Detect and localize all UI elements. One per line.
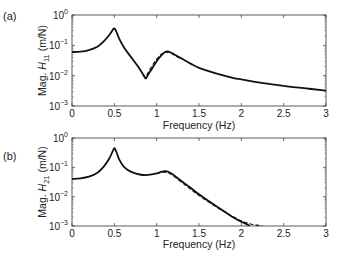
x-tick-label: 2 (239, 108, 245, 119)
series-measured (72, 28, 326, 90)
x-tick-label: 2.5 (277, 108, 291, 119)
series-model (157, 172, 263, 226)
figure: 00.511.522.5310010−110−210−3(a)Frequency… (0, 0, 343, 261)
panel-b: 00.511.522.5310010−110−210−3(b)Frequency… (3, 131, 329, 250)
x-tick-label: 2 (239, 228, 245, 239)
y-tick-label: 10−3 (49, 99, 68, 112)
x-tick-label: 0.5 (107, 228, 121, 239)
x-tick-label: 1 (154, 228, 160, 239)
x-tick-label: 0 (69, 108, 75, 119)
axes-frame (72, 15, 326, 106)
y-tick-label: 10−1 (49, 38, 68, 51)
y-tick-label: 100 (53, 8, 68, 21)
x-axis-label: Frequency (Hz) (163, 238, 235, 250)
x-tick-label: 0.5 (107, 108, 121, 119)
x-tick-label: 3 (323, 108, 329, 119)
y-tick-label: 10−1 (49, 160, 68, 173)
panel-label: (a) (3, 10, 16, 22)
y-tick-label: 10−3 (49, 219, 68, 232)
panel-label: (b) (3, 150, 16, 162)
x-tick-label: 2.5 (277, 228, 291, 239)
y-tick-label: 10−2 (49, 69, 68, 82)
series-measured (72, 148, 250, 226)
axes-frame (72, 138, 326, 226)
y-tick-label: 10−2 (49, 190, 68, 203)
x-axis-label: Frequency (Hz) (163, 119, 235, 131)
y-axis-label: Mag. H11 (m/N) (36, 25, 51, 96)
x-tick-label: 3 (323, 228, 329, 239)
y-tick-label: 100 (53, 131, 68, 144)
x-tick-label: 0 (69, 228, 75, 239)
y-axis-label: Mag. H21 (m/N) (36, 146, 51, 217)
x-tick-label: 1.5 (192, 108, 206, 119)
panel-a: 00.511.522.5310010−110−210−3(a)Frequency… (3, 8, 329, 131)
x-tick-label: 1 (154, 108, 160, 119)
